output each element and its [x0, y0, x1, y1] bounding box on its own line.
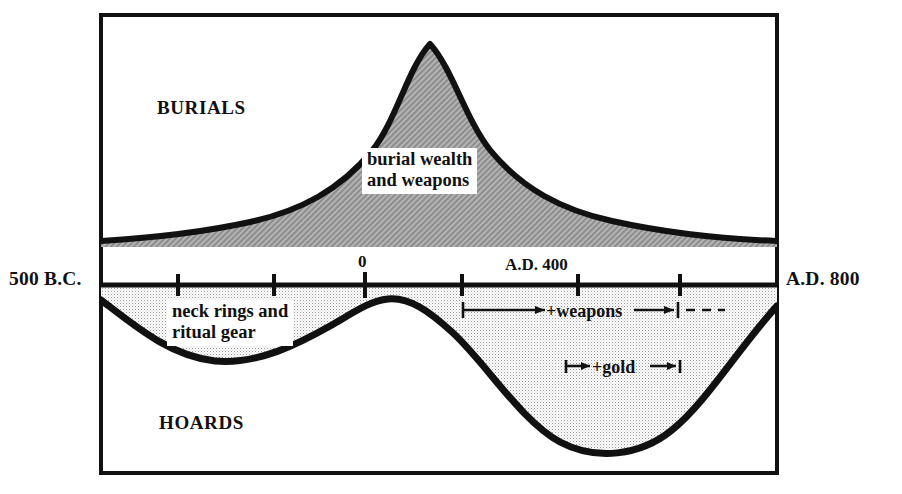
burial-wealth-note-line2: and weapons	[367, 170, 472, 191]
burials-region-label: BURIALS	[157, 97, 246, 119]
chart-canvas	[0, 0, 902, 494]
hoards-region-label: HOARDS	[159, 412, 244, 434]
axis-right-end-label: A.D. 800	[786, 268, 860, 290]
burial-wealth-note-line1: burial wealth	[367, 149, 472, 170]
figure-root: 500 B.C. A.D. 800 BURIALS HOARDS burial …	[0, 0, 902, 494]
weapons-annotation-label: +weapons	[546, 301, 622, 322]
gold-annotation-label: +gold	[592, 357, 635, 378]
zero-tick-label: 0	[358, 252, 367, 272]
neck-rings-note: neck rings and ritual gear	[167, 300, 293, 346]
axis-left-end-label: 500 B.C.	[9, 268, 82, 290]
neck-rings-note-line1: neck rings and	[172, 301, 288, 322]
burial-wealth-note: burial wealth and weapons	[362, 148, 477, 194]
neck-rings-note-line2: ritual gear	[172, 322, 288, 343]
ad400-tick-label: A.D. 400	[500, 255, 573, 276]
